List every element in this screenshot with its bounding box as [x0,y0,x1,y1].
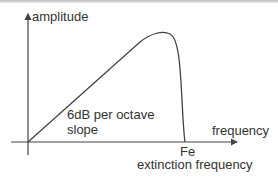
slope-label-line2: slope [67,122,98,137]
frequency-response-diagram: amplitude frequency 6dB per octave slope… [0,0,278,178]
response-curve [28,32,185,142]
x-axis-label: frequency [212,123,270,138]
cutoff-description: extinction frequency [137,157,253,172]
y-axis-label: amplitude [32,9,88,24]
slope-label-line1: 6dB per octave [67,107,154,122]
